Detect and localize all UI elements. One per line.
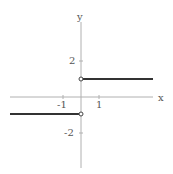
open-endpoint-lower: [79, 112, 83, 116]
x-axis-label: x: [158, 92, 164, 103]
x-tick-label-1: 1: [96, 99, 102, 110]
x-tick-label-neg1: -1: [57, 99, 67, 110]
y-tick-label-neg2: -2: [64, 127, 74, 138]
y-tick-label-2: 2: [69, 55, 75, 66]
open-endpoint-upper: [79, 77, 83, 81]
y-axis-label: y: [76, 11, 83, 22]
step-function-plot: x y -1 1 2 -2: [0, 0, 173, 174]
